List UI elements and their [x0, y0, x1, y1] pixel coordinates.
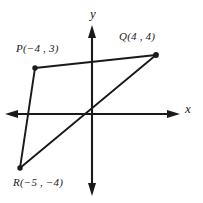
x-axis-arrow-left-icon: [5, 110, 18, 118]
x-axis-label: x: [185, 101, 191, 117]
figure-canvas: [0, 0, 203, 203]
segment-RQ: [20, 55, 156, 168]
y-axis-arrow-up-icon: [88, 25, 96, 38]
point-P-marker: [32, 65, 37, 70]
point-Q-marker: [153, 52, 159, 58]
coordinate-plane-figure: P(−4 , 3) Q(4 , 4) R(−5 , −4) y x: [0, 0, 203, 203]
segment-PQ: [35, 55, 156, 68]
x-axis-arrow-right-icon: [167, 110, 180, 118]
y-axis-label: y: [90, 6, 96, 22]
point-label-Q: Q(4 , 4): [119, 30, 155, 42]
y-axis-arrow-down-icon: [88, 183, 96, 196]
point-label-R: R(−5 , −4): [13, 176, 63, 188]
segment-PR: [20, 68, 35, 168]
point-R-marker: [17, 165, 22, 170]
point-label-P: P(−4 , 3): [16, 42, 59, 54]
